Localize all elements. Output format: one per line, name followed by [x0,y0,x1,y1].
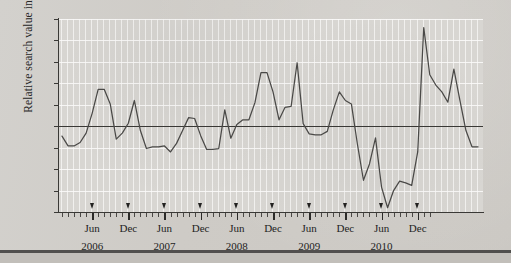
x-tick-minor [140,213,141,217]
x-tick-label: Jun [217,222,257,234]
x-tick-label: Dec [325,222,365,234]
x-tick-major [345,213,347,220]
x-tick-minor [333,213,334,217]
x-tick-minor [376,213,377,217]
plot-area [59,19,483,212]
x-tick-minor [327,213,328,217]
y-axis-ticks: 2520151050−5−10−15−20 [0,0,59,263]
y-tick [54,62,58,63]
x-tick-label: Dec [253,222,293,234]
x-tick-label: Dec [108,222,148,234]
x-tick-minor [183,213,184,217]
x-tick-minor [158,213,159,217]
x-tick-minor [285,213,286,217]
x-tick-major [164,213,166,220]
x-tick-minor [213,213,214,217]
x-tick-label: Dec [181,222,221,234]
x-axis-marker-arrow [343,203,347,209]
data-series-line [59,19,483,212]
x-tick-minor [394,213,395,217]
x-tick-minor [177,213,178,217]
x-tick-minor [116,213,117,217]
x-tick-minor [424,213,425,217]
x-tick-minor [152,213,153,217]
x-tick-label: Jun [144,222,184,234]
x-tick-minor [110,213,111,217]
x-tick-minor [189,213,190,217]
x-tick-minor [86,213,87,217]
x-tick-minor [388,213,389,217]
y-tick [54,191,58,192]
x-axis-marker-arrow [162,203,166,209]
y-tick [54,126,58,127]
y-tick [54,105,58,106]
x-tick-label: Jun [362,222,402,234]
x-axis-marker-arrow [307,203,311,209]
x-tick-minor [171,213,172,217]
x-tick-label: Jun [72,222,112,234]
x-tick-major [237,213,239,220]
x-tick-minor [291,213,292,217]
x-tick-minor [369,213,370,217]
x-axis-marker-arrow [415,203,419,209]
x-axis-marker-arrow [90,203,94,209]
x-axis-marker-arrow [379,203,383,209]
x-tick-minor [357,213,358,217]
x-tick-minor [98,213,99,217]
x-tick-label: Jun [289,222,329,234]
x-tick-minor [321,213,322,217]
x-tick-minor [363,213,364,217]
x-axis-marker-arrow [270,203,274,209]
y-tick [54,40,58,41]
x-tick-label: Dec [398,222,438,234]
x-tick-major [128,213,130,220]
x-tick-minor [303,213,304,217]
x-tick-minor [267,213,268,217]
x-tick-minor [243,213,244,217]
x-tick-major [92,213,94,220]
x-tick-major [382,213,384,220]
x-tick-minor [219,213,220,217]
x-tick-major [273,213,275,220]
x-axis-marker-arrow [234,203,238,209]
x-tick-minor [207,213,208,217]
y-tick [54,83,58,84]
y-tick [54,19,58,20]
x-tick-minor [68,213,69,217]
y-tick [54,169,58,170]
x-tick-minor [315,213,316,217]
x-tick-minor [134,213,135,217]
x-tick-minor [74,213,75,217]
y-tick [54,212,58,213]
x-tick-minor [430,213,431,217]
x-tick-minor [297,213,298,217]
x-tick-minor [400,213,401,217]
x-tick-minor [249,213,250,217]
x-tick-minor [231,213,232,217]
x-tick-minor [406,213,407,217]
x-tick-minor [412,213,413,217]
x-tick-major [418,213,420,220]
x-tick-minor [351,213,352,217]
x-axis-marker-arrow [198,203,202,209]
x-tick-minor [80,213,81,217]
x-axis-marker-arrow [126,203,130,209]
x-tick-minor [62,213,63,217]
x-tick-minor [146,213,147,217]
x-tick-minor [339,213,340,217]
x-tick-major [309,213,311,220]
x-tick-minor [104,213,105,217]
x-tick-major [201,213,203,220]
x-tick-minor [261,213,262,217]
x-tick-minor [195,213,196,217]
x-tick-minor [225,213,226,217]
x-tick-minor [122,213,123,217]
x-tick-minor [255,213,256,217]
x-tick-minor [279,213,280,217]
page-bottom-margin [0,253,511,263]
chart-figure: Relative search value index 2520151050−5… [0,0,511,263]
y-tick [54,148,58,149]
